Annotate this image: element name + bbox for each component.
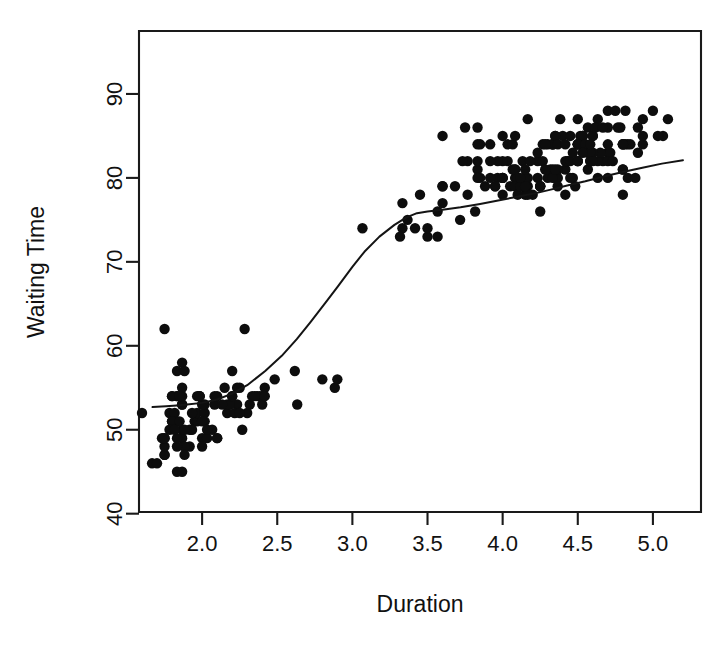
data-point	[472, 122, 482, 132]
data-point	[485, 156, 495, 166]
data-point	[663, 114, 673, 124]
data-point	[560, 189, 570, 199]
data-point	[174, 391, 184, 401]
data-point	[269, 374, 279, 384]
x-tick-label: 3.0	[337, 531, 368, 556]
data-point	[510, 131, 520, 141]
data-point	[159, 324, 169, 334]
data-point	[332, 374, 342, 384]
data-point	[568, 148, 578, 158]
data-point	[217, 399, 227, 409]
data-point	[630, 173, 640, 183]
y-tick-label: 80	[103, 166, 128, 190]
data-point	[618, 189, 628, 199]
data-point	[202, 425, 212, 435]
data-point	[648, 106, 658, 116]
data-point	[179, 366, 189, 376]
data-point	[234, 408, 244, 418]
data-point	[410, 223, 420, 233]
data-point	[177, 467, 187, 477]
data-point	[159, 433, 169, 443]
y-tick-label: 50	[103, 417, 128, 441]
data-point	[415, 189, 425, 199]
data-point	[515, 173, 525, 183]
x-tick-label: 5.0	[638, 531, 669, 556]
data-point	[237, 425, 247, 435]
data-point	[497, 131, 507, 141]
x-tick-label: 4.5	[562, 531, 593, 556]
data-point	[573, 114, 583, 124]
data-point	[608, 156, 618, 166]
data-point	[462, 189, 472, 199]
data-point	[585, 139, 595, 149]
data-point	[578, 148, 588, 158]
data-point	[422, 223, 432, 233]
data-point	[588, 156, 598, 166]
y-tick-label: 90	[103, 82, 128, 106]
y-tick-label: 60	[103, 334, 128, 358]
data-point	[137, 408, 147, 418]
y-tick-label: 70	[103, 250, 128, 274]
data-point	[395, 231, 405, 241]
data-point	[397, 198, 407, 208]
data-point	[613, 122, 623, 132]
data-point	[432, 231, 442, 241]
data-point	[179, 450, 189, 460]
data-point	[598, 122, 608, 132]
data-point	[197, 441, 207, 451]
data-point	[460, 122, 470, 132]
data-point	[187, 408, 197, 418]
data-point	[535, 181, 545, 191]
x-tick-label: 3.5	[412, 531, 443, 556]
data-point	[357, 223, 367, 233]
data-point	[260, 391, 270, 401]
data-point	[485, 173, 495, 183]
data-point	[550, 164, 560, 174]
data-point	[239, 324, 249, 334]
data-point	[472, 139, 482, 149]
x-tick-label: 2.5	[262, 531, 293, 556]
data-point	[523, 114, 533, 124]
data-point	[169, 425, 179, 435]
data-point	[290, 366, 300, 376]
data-point	[219, 383, 229, 393]
plot-canvas: 2.02.53.03.54.04.55.0 405060708090	[0, 0, 728, 651]
data-point	[472, 173, 482, 183]
data-point	[450, 181, 460, 191]
data-point	[560, 139, 570, 149]
data-point	[437, 181, 447, 191]
scatter-plot-figure: 2.02.53.03.54.04.55.0 405060708090 Durat…	[0, 0, 728, 651]
data-point	[455, 215, 465, 225]
data-point	[638, 131, 648, 141]
data-point	[540, 139, 550, 149]
data-point	[620, 106, 630, 116]
data-point	[317, 374, 327, 384]
data-point	[618, 139, 628, 149]
y-tick-label: 40	[103, 501, 128, 525]
data-point	[212, 433, 222, 443]
data-point	[227, 366, 237, 376]
data-point	[610, 106, 620, 116]
data-point	[535, 206, 545, 216]
data-point	[603, 139, 613, 149]
x-tick-label: 4.0	[487, 531, 518, 556]
data-point	[457, 156, 467, 166]
data-point	[653, 131, 663, 141]
data-point	[292, 399, 302, 409]
data-point	[555, 114, 565, 124]
data-point	[540, 164, 550, 174]
data-point	[152, 458, 162, 468]
data-point	[472, 156, 482, 166]
x-tick-label: 2.0	[187, 531, 218, 556]
data-point	[485, 139, 495, 149]
data-point	[497, 173, 507, 183]
data-point	[250, 391, 260, 401]
data-point	[565, 173, 575, 183]
data-point	[194, 391, 204, 401]
data-point	[470, 206, 480, 216]
data-point	[437, 131, 447, 141]
